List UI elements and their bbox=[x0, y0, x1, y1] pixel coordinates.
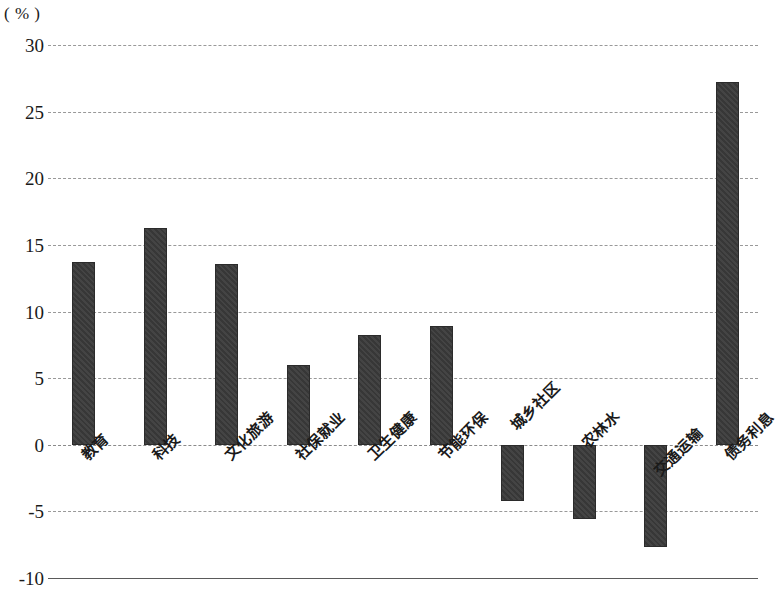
y-axis-tick-label: 20 bbox=[2, 169, 44, 188]
y-axis-tick-label: 10 bbox=[2, 302, 44, 321]
bar bbox=[430, 326, 453, 445]
bar bbox=[215, 264, 238, 445]
y-axis-tick-label: 15 bbox=[2, 235, 44, 254]
bar bbox=[287, 365, 310, 445]
bar bbox=[144, 228, 167, 445]
bar bbox=[358, 335, 381, 444]
y-axis-tick-label: 5 bbox=[2, 369, 44, 388]
y-axis-tick-label: -5 bbox=[2, 502, 44, 521]
gridline bbox=[48, 178, 758, 179]
plot-area: 教育科技文化旅游社保就业卫生健康节能环保城乡社区农林水交通运输债务利息 bbox=[48, 0, 758, 584]
gridline bbox=[48, 112, 758, 113]
gridline bbox=[48, 578, 758, 579]
y-axis-tick-label: 0 bbox=[2, 435, 44, 454]
y-axis-tick-label: 25 bbox=[2, 102, 44, 121]
bar bbox=[716, 82, 739, 444]
category-label: 城乡社区 bbox=[509, 379, 563, 433]
y-axis-tick-label: 30 bbox=[2, 36, 44, 55]
y-axis: 302520151050-5-10 bbox=[0, 0, 44, 584]
gridline bbox=[48, 45, 758, 46]
y-axis-tick-label: -10 bbox=[2, 569, 44, 588]
bar bbox=[573, 445, 596, 520]
bar bbox=[501, 445, 524, 501]
bar bbox=[72, 262, 95, 445]
